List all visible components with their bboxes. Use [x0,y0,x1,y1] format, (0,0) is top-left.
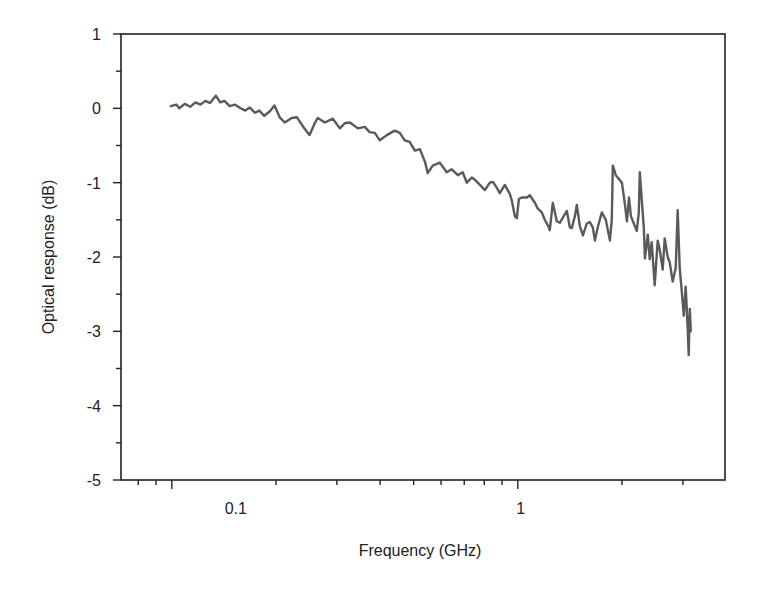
y-tick-label: -3 [87,323,101,340]
y-tick-label: -4 [87,398,101,415]
x-axis-ticks: 0.11 [138,480,683,517]
y-axis-ticks: 10-1-2-3-4-5 [87,26,121,489]
y-axis-title: Optical response (dB) [40,180,57,335]
x-tick-label: 0.1 [225,500,247,517]
y-tick-label: -2 [87,249,101,266]
x-tick-label: 1 [516,500,525,517]
y-tick-label: 0 [92,100,101,117]
y-tick-label: -5 [87,472,101,489]
x-axis-title: Frequency (GHz) [359,542,482,559]
y-tick-label: -1 [87,175,101,192]
line-chart: 10-1-2-3-4-5 0.11 Frequency (GHz) Optica… [0,0,762,595]
series-line-optical-response [171,96,691,355]
y-tick-label: 1 [92,26,101,43]
